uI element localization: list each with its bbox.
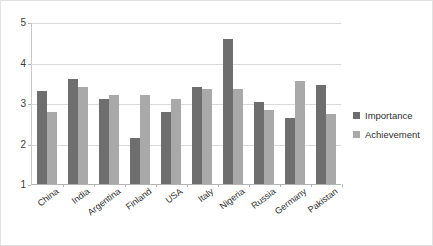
y-axis-tick-label: 3 — [20, 99, 26, 109]
x-axis-label-germany: Germany — [273, 187, 308, 216]
bar-achievement-pakistan — [326, 114, 336, 184]
bar-achievement-india — [78, 87, 88, 184]
x-tick-mark — [187, 184, 188, 187]
x-tick-mark — [218, 184, 219, 187]
x-tick-mark — [156, 184, 157, 187]
bar-importance-germany — [285, 118, 295, 184]
y-axis-tick-label: 4 — [20, 59, 26, 69]
x-tick-mark — [125, 184, 126, 187]
bar-achievement-china — [47, 112, 57, 184]
bar-achievement-nigeria — [233, 89, 243, 184]
y-axis-tick-label: 5 — [20, 18, 26, 28]
bar-importance-nigeria — [223, 39, 233, 184]
x-axis-label-argentina: Argentina — [86, 187, 122, 217]
bar-importance-china — [37, 91, 47, 184]
y-tick-mark — [28, 185, 31, 186]
y-tick-mark — [28, 104, 31, 105]
bar-group — [187, 23, 218, 184]
bar-group — [63, 23, 94, 184]
x-axis-label-pakistan: Pakistan — [306, 187, 339, 215]
x-tick-mark — [94, 184, 95, 187]
y-tick-mark — [28, 64, 31, 65]
x-axis-line — [31, 184, 341, 185]
legend-swatch-icon — [353, 131, 360, 138]
x-axis-label-india: India — [70, 187, 91, 206]
x-tick-mark — [280, 184, 281, 187]
bar-importance-russia — [254, 102, 264, 185]
bar-achievement-finland — [140, 95, 150, 184]
bar-achievement-usa — [171, 99, 181, 184]
bar-importance-pakistan — [316, 85, 326, 184]
bar-group — [156, 23, 187, 184]
bar-importance-usa — [161, 112, 171, 184]
bar-group — [217, 23, 248, 184]
x-axis-labels: ChinaIndiaArgentinaFinlandUSAItalyNigeri… — [32, 187, 342, 245]
bar-groups — [32, 23, 341, 184]
x-axis-label-china: China — [36, 187, 60, 208]
bar-achievement-russia — [264, 110, 274, 184]
y-tick-mark — [28, 145, 31, 146]
y-axis-tick-label: 2 — [20, 140, 26, 150]
bar-group — [279, 23, 310, 184]
legend-label: Importance — [365, 111, 413, 121]
bar-achievement-argentina — [109, 95, 119, 184]
legend-item-achievement[interactable]: Achievement — [353, 130, 420, 140]
bar-importance-india — [68, 79, 78, 184]
bar-importance-italy — [192, 87, 202, 184]
x-axis-label-nigeria: Nigeria — [218, 187, 246, 211]
chart-container: 12345 ChinaIndiaArgentinaFinlandUSAItaly… — [0, 0, 433, 246]
x-axis-label-italy: Italy — [196, 187, 215, 204]
chart-legend: ImportanceAchievement — [353, 111, 420, 139]
legend-label: Achievement — [365, 130, 420, 140]
y-tick-mark — [28, 23, 31, 24]
plot-area: 12345 — [31, 23, 341, 185]
legend-swatch-icon — [353, 112, 360, 119]
bar-group — [94, 23, 125, 184]
bar-achievement-germany — [295, 81, 305, 184]
bar-group — [125, 23, 156, 184]
bar-group — [248, 23, 279, 184]
x-tick-mark — [342, 184, 343, 187]
x-tick-mark — [311, 184, 312, 187]
x-tick-mark — [63, 184, 64, 187]
x-axis-label-usa: USA — [164, 187, 184, 205]
x-tick-mark — [249, 184, 250, 187]
bar-importance-finland — [130, 138, 140, 184]
legend-item-importance[interactable]: Importance — [353, 111, 420, 121]
bar-importance-argentina — [99, 99, 109, 184]
x-axis-label-finland: Finland — [124, 187, 153, 212]
bar-group — [32, 23, 63, 184]
bar-group — [310, 23, 341, 184]
bar-achievement-italy — [202, 89, 212, 184]
y-axis-tick-label: 1 — [20, 180, 26, 190]
